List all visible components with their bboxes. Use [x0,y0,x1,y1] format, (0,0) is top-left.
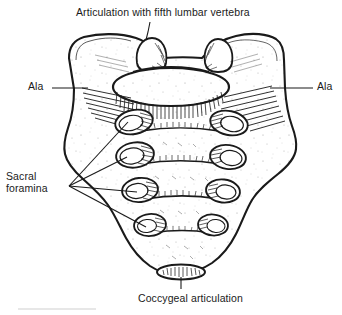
label-articulation-fifth-lumbar: Articulation with fifth lumbar vertebra [76,6,250,18]
label-coccygeal-articulation: Coccygeal articulation [138,292,243,304]
sacrum-illustration [0,0,342,315]
label-ala-left: Ala [28,80,43,92]
label-ala-right: Ala [317,80,332,92]
leader-articulation-fifth-lumbar [146,22,150,40]
label-sacral-foramina: Sacral foramina [6,170,48,194]
sacrum-anatomical-figure: Articulation with fifth lumbar vertebra … [0,0,342,315]
superior-articular-process-right [205,39,233,72]
